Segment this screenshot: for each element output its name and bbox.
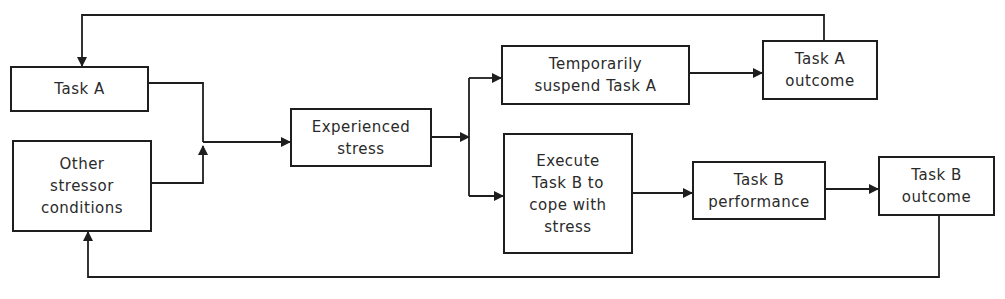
edge-task-a-to-junction <box>149 83 203 142</box>
node-task-b-outcome-label: Task B outcome <box>902 164 971 208</box>
edge-other-stressors-to-junction <box>152 146 203 183</box>
node-experienced-stress-label: Experienced stress <box>312 116 411 160</box>
node-task-a-outcome-label: Task A outcome <box>785 48 854 92</box>
node-task-b-performance-label: Task B performance <box>708 169 810 213</box>
node-execute-task-b: Execute Task B to cope with stress <box>503 133 633 254</box>
edge-task-a-outcome-feedback <box>82 15 824 66</box>
node-task-a: Task A <box>10 66 149 112</box>
node-experienced-stress: Experienced stress <box>290 108 432 167</box>
node-temporarily-suspend-task-a-label: Temporarily suspend Task A <box>534 53 656 97</box>
node-task-a-label: Task A <box>54 78 104 100</box>
node-execute-task-b-label: Execute Task B to cope with stress <box>529 150 606 238</box>
node-task-b-performance: Task B performance <box>692 161 826 220</box>
stress-flow-diagram: Task A Other stressor conditions Experie… <box>0 0 1005 299</box>
node-task-a-outcome: Task A outcome <box>762 40 878 100</box>
node-other-stressor-conditions: Other stressor conditions <box>12 140 152 232</box>
node-temporarily-suspend-task-a: Temporarily suspend Task A <box>501 45 690 105</box>
node-task-b-outcome: Task B outcome <box>878 156 995 216</box>
node-other-stressor-conditions-label: Other stressor conditions <box>41 153 123 219</box>
